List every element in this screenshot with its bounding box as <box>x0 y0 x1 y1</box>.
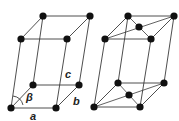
crystal-diagram: c β b a <box>0 0 179 121</box>
primitive-monoclinic-cell: c β b a <box>7 12 93 121</box>
label-c: c <box>65 68 71 80</box>
label-b: b <box>73 95 80 107</box>
base-centered-monoclinic-cell <box>90 12 177 110</box>
bottom-face-center-atom <box>125 91 132 98</box>
label-a: a <box>30 110 36 121</box>
top-face-center-atom <box>135 23 142 30</box>
label-beta: β <box>25 91 33 103</box>
